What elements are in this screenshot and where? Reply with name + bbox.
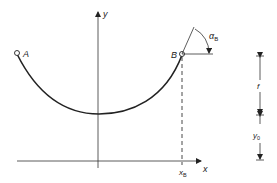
sag-label: f — [257, 82, 260, 91]
cable-curve — [17, 54, 182, 114]
point-b-label: B — [171, 50, 177, 60]
point-a-marker — [15, 51, 20, 56]
y-axis-label: y — [102, 9, 108, 19]
tangent-line-b — [182, 27, 194, 54]
offset-label: y0 — [252, 131, 260, 141]
angle-arc — [195, 29, 209, 53]
x-axis-label: x — [202, 164, 208, 174]
point-a-label: A — [22, 49, 29, 59]
dimension-markers — [256, 56, 264, 160]
diagram-canvas: x y A B αB xB f y0 — [0, 0, 277, 183]
x-b-label: xB — [178, 168, 187, 178]
angle-label: αB — [209, 31, 218, 42]
